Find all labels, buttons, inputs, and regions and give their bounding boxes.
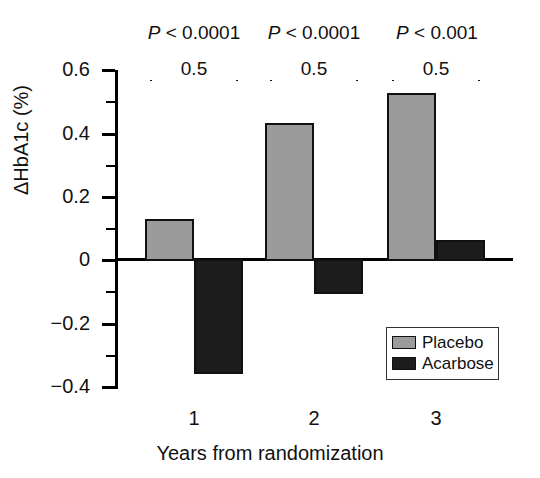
y-tick-label-0: 0	[28, 248, 90, 271]
y-tick--0.2	[102, 323, 115, 326]
y-tick--0.4	[102, 386, 115, 389]
legend-item-acarbose: Acarbose	[392, 353, 493, 374]
pvalue-year2-rest: < 0.0001	[280, 22, 360, 43]
legend-swatch-placebo-icon	[392, 336, 416, 349]
pvalue-year3: P < 0.001	[362, 22, 512, 44]
bracket-year1-value: 0.5	[150, 58, 238, 80]
bar-acarbose-year1	[194, 259, 243, 374]
bar-acarbose-year2	[314, 259, 363, 294]
y-minor-tick-0.1	[106, 228, 115, 230]
y-tick-0.2	[102, 196, 115, 199]
y-tick-0.6	[102, 69, 115, 72]
y-tick-label--0.4: −0.4	[28, 375, 90, 398]
pvalue-year2-p: P	[268, 22, 281, 43]
x-axis-label: Years from randomization	[0, 442, 540, 465]
bar-acarbose-year3	[436, 240, 485, 261]
y-minor-tick--0.1	[106, 291, 115, 293]
x-tick-label-2: 2	[284, 407, 344, 430]
bar-placebo-year1	[145, 219, 194, 261]
pvalue-year3-rest: < 0.001	[409, 22, 478, 43]
y-tick-label-0.6: 0.6	[28, 58, 90, 81]
legend: Placebo Acarbose	[386, 327, 499, 380]
legend-label-placebo: Placebo	[422, 333, 483, 353]
bar-placebo-year2	[265, 123, 314, 261]
bracket-year1: 0.5	[150, 58, 238, 80]
y-tick-label--0.2: −0.2	[28, 312, 90, 335]
legend-item-placebo: Placebo	[392, 332, 493, 353]
bracket-year2-value: 0.5	[270, 58, 358, 80]
x-tick-label-1: 1	[164, 407, 224, 430]
x-tick-label-3: 3	[406, 407, 466, 430]
pvalue-year3-p: P	[396, 22, 409, 43]
y-tick-0.4	[102, 133, 115, 136]
y-minor-tick-0.5	[106, 101, 115, 103]
plot-area: 0.6 0.4 0.2 0 −0.2 −0.4 P < 0.0001 P < 0…	[0, 0, 540, 478]
y-minor-tick--0.3	[106, 355, 115, 357]
y-tick-0	[102, 259, 115, 262]
bracket-year3-value: 0.5	[392, 58, 480, 80]
legend-swatch-acarbose-icon	[392, 357, 416, 370]
bracket-year3: 0.5	[392, 58, 480, 80]
bar-placebo-year3	[387, 93, 436, 261]
legend-label-acarbose: Acarbose	[422, 354, 494, 374]
chart-figure: ΔHbA1c (%) 0.6 0.4 0.2 0 −0.2 −0.4	[0, 0, 540, 478]
y-minor-tick-0.3	[106, 165, 115, 167]
pvalue-year1-rest: < 0.0001	[160, 22, 240, 43]
bracket-year2: 0.5	[270, 58, 358, 80]
y-tick-label-0.2: 0.2	[28, 185, 90, 208]
y-tick-label-0.4: 0.4	[28, 122, 90, 145]
pvalue-year1-p: P	[148, 22, 161, 43]
y-axis-line	[115, 70, 118, 389]
